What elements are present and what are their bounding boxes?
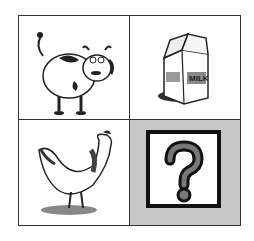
hen-icon bbox=[19, 120, 130, 225]
question-box[interactable] bbox=[146, 130, 221, 208]
cell-cow[interactable] bbox=[19, 16, 130, 120]
cell-milk[interactable]: MILK bbox=[130, 16, 240, 120]
cow-icon bbox=[19, 16, 130, 120]
cell-question[interactable] bbox=[130, 120, 240, 225]
question-mark-icon bbox=[150, 134, 217, 204]
milk-label: MILK bbox=[189, 74, 209, 83]
cell-hen[interactable] bbox=[19, 120, 130, 225]
picture-grid: MILK bbox=[18, 15, 241, 226]
milk-carton-icon: MILK bbox=[130, 16, 240, 120]
